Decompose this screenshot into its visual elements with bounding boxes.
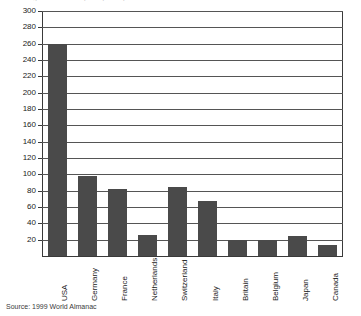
gridline bbox=[42, 142, 343, 143]
x-tick-label: Japan bbox=[302, 279, 310, 301]
gridline bbox=[42, 125, 343, 126]
y-tick-mark bbox=[38, 223, 42, 224]
bar bbox=[138, 235, 157, 256]
y-tick-label: 280 bbox=[12, 23, 36, 31]
y-tick-mark bbox=[38, 109, 42, 110]
y-tick-label: 180 bbox=[12, 105, 36, 113]
gridline bbox=[42, 27, 343, 28]
y-tick-label: 200 bbox=[12, 89, 36, 97]
y-tick-label: 80 bbox=[12, 187, 36, 195]
x-tick-label: France bbox=[121, 276, 129, 301]
y-tick-mark bbox=[38, 240, 42, 241]
gridline bbox=[42, 44, 343, 45]
y-tick-mark bbox=[38, 207, 42, 208]
gridline bbox=[42, 158, 343, 159]
bar bbox=[318, 245, 337, 256]
x-tick-label: Germany bbox=[91, 268, 99, 301]
bar bbox=[198, 201, 217, 256]
x-tick-label: Switzerland bbox=[181, 260, 189, 301]
y-tick-label: 140 bbox=[12, 138, 36, 146]
y-tick-label: 120 bbox=[12, 154, 36, 162]
y-tick-mark bbox=[38, 158, 42, 159]
x-axis-line bbox=[42, 256, 343, 257]
y-tick-label: 60 bbox=[12, 203, 36, 211]
y-tick-label: 20 bbox=[12, 236, 36, 244]
y-tick-mark bbox=[38, 76, 42, 77]
bar bbox=[258, 240, 277, 256]
gridline bbox=[42, 109, 343, 110]
x-tick-label: Belgium bbox=[272, 272, 280, 301]
y-tick-label: 260 bbox=[12, 40, 36, 48]
y-tick-label: 160 bbox=[12, 121, 36, 129]
bar bbox=[48, 44, 67, 256]
gridline bbox=[42, 76, 343, 77]
x-tick-label: Canada bbox=[332, 273, 340, 301]
bar bbox=[228, 240, 247, 256]
chart-title: Cigarette consumption per capita bbox=[26, 0, 135, 1]
y-tick-label: 300 bbox=[12, 7, 36, 15]
gridline bbox=[42, 60, 343, 61]
y-tick-mark bbox=[38, 60, 42, 61]
source-note: Source: 1999 World Almanac bbox=[6, 303, 97, 311]
y-tick-label: 100 bbox=[12, 170, 36, 178]
y-tick-mark bbox=[38, 44, 42, 45]
gridline bbox=[42, 93, 343, 94]
y-tick-mark bbox=[38, 93, 42, 94]
y-tick-label: 240 bbox=[12, 56, 36, 64]
bar bbox=[78, 176, 97, 256]
y-tick-label: 40 bbox=[12, 219, 36, 227]
bar bbox=[288, 236, 307, 256]
bar bbox=[108, 189, 127, 256]
x-tick-label: Italy bbox=[212, 286, 220, 301]
y-tick-label: 220 bbox=[12, 72, 36, 80]
y-tick-mark bbox=[38, 191, 42, 192]
y-tick-mark bbox=[38, 11, 42, 12]
y-tick-mark bbox=[38, 142, 42, 143]
plot-area bbox=[42, 11, 343, 256]
x-tick-label: USA bbox=[61, 285, 69, 301]
x-tick-label: Britain bbox=[242, 278, 250, 301]
y-tick-mark bbox=[38, 174, 42, 175]
y-tick-mark bbox=[38, 125, 42, 126]
gridline bbox=[42, 11, 343, 12]
y-tick-mark bbox=[38, 27, 42, 28]
x-tick-label: Netherlands bbox=[151, 258, 159, 301]
bar-chart: Cigarette consumption per capita 2040608… bbox=[0, 0, 361, 316]
bar bbox=[168, 187, 187, 256]
